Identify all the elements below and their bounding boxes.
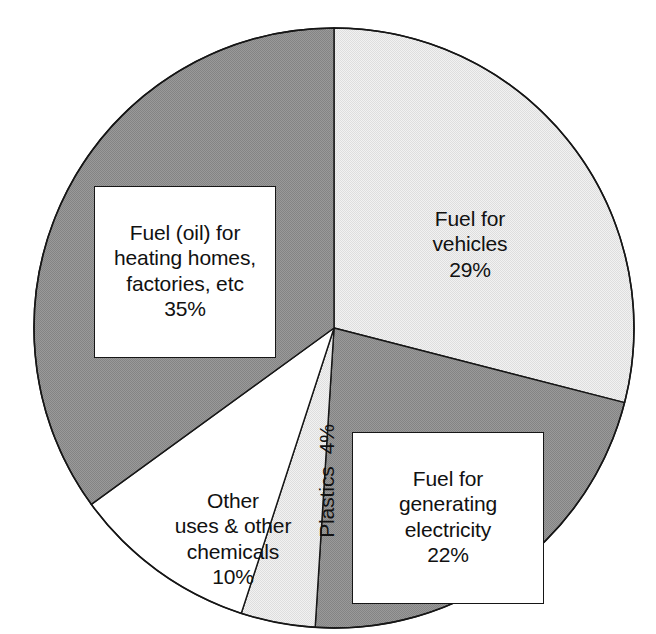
slice-label-heating-text: Fuel (oil) for heating homes, factories,…: [114, 221, 256, 295]
slice-label-electricity-pct: 22%: [365, 542, 531, 568]
slice-label-heating: Fuel (oil) for heating homes, factories,…: [94, 186, 276, 358]
slice-label-other-text: Other uses & other chemicals: [175, 489, 292, 563]
slice-label-other: Other uses & other chemicals 10%: [140, 462, 326, 616]
slice-label-other-pct: 10%: [140, 564, 326, 590]
slice-label-plastics-text: Plastics: [315, 466, 338, 538]
slice-label-vehicles-text: Fuel for vehicles: [432, 207, 507, 256]
pie-chart-figure: Fuel (oil) for heating homes, factories,…: [0, 0, 656, 634]
slice-label-plastics-pct: 4%: [315, 424, 338, 454]
slice-label-electricity-text: Fuel for generating electricity: [399, 467, 497, 541]
slice-label-vehicles-pct: 29%: [396, 257, 544, 283]
slice-label-electricity: Fuel for generating electricity 22%: [352, 432, 544, 604]
slice-label-plastics: Plastics4%: [314, 401, 340, 561]
slice-label-heating-pct: 35%: [107, 296, 263, 322]
slice-label-vehicles: Fuel for vehicles 29%: [396, 180, 544, 308]
